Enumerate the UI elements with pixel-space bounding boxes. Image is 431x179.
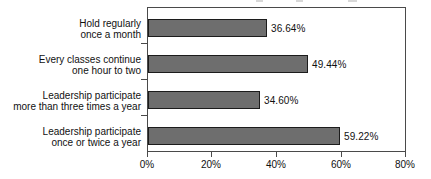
- bar-row-3: 59.22%: [148, 127, 423, 145]
- bar-3: [148, 127, 340, 145]
- category-label-3-line-1: once or twice a year: [0, 137, 141, 148]
- bar-1: [148, 55, 308, 73]
- x-axis-tick-3: [341, 152, 342, 157]
- x-axis-label-4: 80%: [395, 159, 415, 170]
- top-crop-artifact-1: [256, 0, 263, 2]
- bar-row-2: 34.60%: [148, 91, 423, 109]
- x-axis-label-1: 20%: [201, 159, 221, 170]
- category-label-1-line-0: Every classes continue: [0, 54, 141, 65]
- bar-0: [148, 19, 267, 37]
- category-label-2: Leadership participate more than three t…: [0, 90, 141, 112]
- category-label-1: Every classes continue one hour to two: [0, 54, 141, 76]
- category-label-2-line-1: more than three times a year: [0, 101, 141, 112]
- category-label-0-line-0: Hold regularly: [0, 18, 141, 29]
- top-crop-artifact-2: [296, 0, 303, 2]
- x-axis-label-0: 0%: [140, 159, 154, 170]
- x-axis-tick-2: [276, 152, 277, 157]
- x-axis-tick-0: [147, 152, 148, 157]
- top-crop-artifact-3: [348, 0, 357, 2]
- category-axis-labels: Hold regularly once a month Every classe…: [0, 0, 144, 179]
- x-axis-label-3: 60%: [331, 159, 351, 170]
- bar-2: [148, 91, 260, 109]
- bar-value-1: 49.44%: [312, 59, 347, 70]
- category-label-3: Leadership participate once or twice a y…: [0, 126, 141, 148]
- bar-value-0: 36.64%: [271, 23, 306, 34]
- horizontal-bar-chart: Hold regularly once a month Every classe…: [0, 0, 431, 179]
- bar-row-1: 49.44%: [148, 55, 423, 73]
- bar-row-0: 36.64%: [148, 19, 423, 37]
- category-label-1-line-1: one hour to two: [0, 65, 141, 76]
- category-label-0-line-1: once a month: [0, 29, 141, 40]
- x-axis-tick-4: [405, 152, 406, 157]
- category-label-0: Hold regularly once a month: [0, 18, 141, 40]
- x-axis-tick-1: [211, 152, 212, 157]
- bar-value-2: 34.60%: [264, 95, 299, 106]
- x-axis-label-2: 40%: [266, 159, 286, 170]
- category-label-3-line-0: Leadership participate: [0, 126, 141, 137]
- category-label-2-line-0: Leadership participate: [0, 90, 141, 101]
- bar-value-3: 59.22%: [344, 131, 379, 142]
